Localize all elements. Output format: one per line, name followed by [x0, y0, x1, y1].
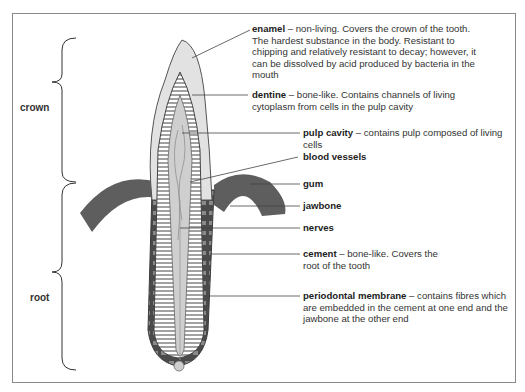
term-dentine: dentine	[252, 89, 286, 100]
term-enamel: enamel	[252, 23, 285, 34]
root-apex	[174, 361, 184, 371]
label-enamel: enamel – non-living. Covers the crown of…	[252, 23, 477, 81]
label-dentine: dentine – bone-like. Contains channels o…	[252, 89, 472, 112]
desc-enamel: – non-living. Covers the crown of the to…	[252, 23, 476, 80]
label-blood-vessels: blood vessels	[303, 151, 366, 163]
crown-label: crown	[20, 102, 49, 113]
root-brace	[52, 183, 76, 370]
label-periodontal-membrane: periodontal membrane – contains fibres w…	[303, 290, 513, 325]
term-gum: gum	[303, 178, 323, 189]
label-cement: cement – bone-like. Covers the root of t…	[303, 248, 453, 271]
label-gum: gum	[303, 178, 323, 190]
root-label: root	[30, 292, 49, 303]
label-jawbone: jawbone	[303, 200, 341, 212]
term-nerves: nerves	[303, 222, 334, 233]
term-blood-vessels: blood vessels	[303, 151, 366, 162]
term-periodontal-membrane: periodontal membrane	[303, 290, 406, 301]
label-nerves: nerves	[303, 222, 334, 234]
term-jawbone: jawbone	[303, 200, 341, 211]
label-pulp-cavity: pulp cavity – contains pulp composed of …	[303, 127, 518, 150]
gum-right	[214, 174, 285, 216]
term-cement: cement	[303, 248, 337, 259]
crown-brace	[52, 38, 76, 182]
term-pulp-cavity: pulp cavity	[303, 127, 353, 138]
